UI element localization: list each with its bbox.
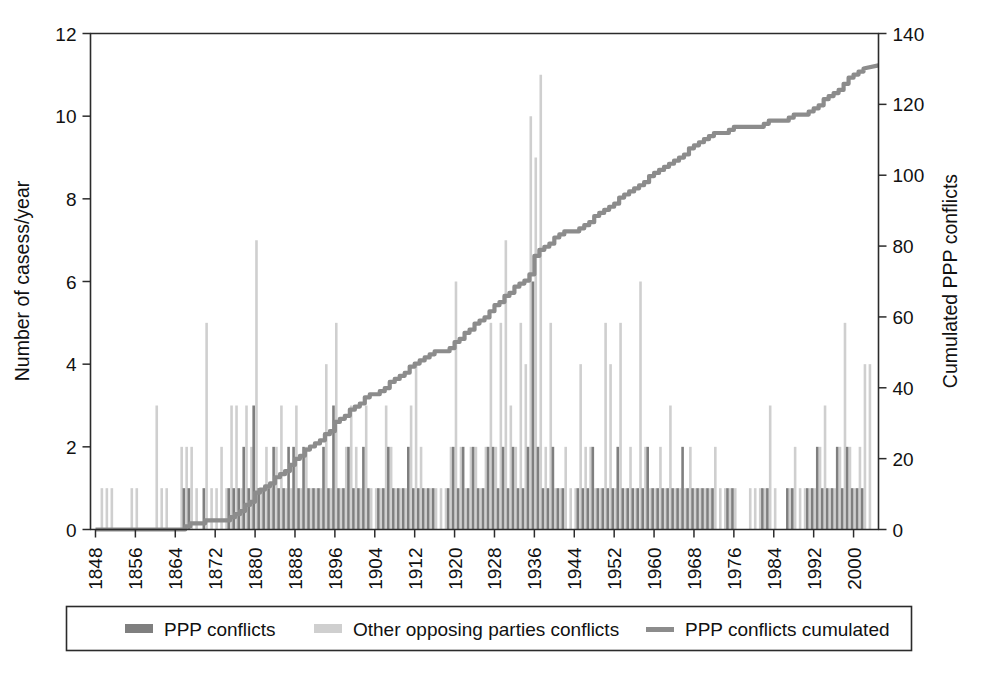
legend-swatch-ppp-conflicts xyxy=(125,624,153,633)
left-tick-label: 2 xyxy=(66,437,77,458)
legend-label-cumulated: PPP conflicts cumulated xyxy=(685,619,890,640)
x-tick-label: 1928 xyxy=(484,548,505,590)
left-axis-title: Number of casess/year xyxy=(11,180,33,381)
x-tick-label: 1960 xyxy=(644,548,665,590)
left-tick-label: 0 xyxy=(66,520,77,541)
right-tick-label: 100 xyxy=(893,165,925,186)
x-tick-label: 1896 xyxy=(325,548,346,590)
x-tick-label: 1864 xyxy=(165,547,186,590)
x-tick-label: 1944 xyxy=(564,547,585,590)
right-tick-label: 20 xyxy=(893,449,914,470)
left-tick-label: 8 xyxy=(66,189,77,210)
left-tick-label: 4 xyxy=(66,354,77,375)
x-tick-label: 1912 xyxy=(405,548,426,590)
x-tick-label: 1992 xyxy=(804,548,825,590)
legend-label-ppp-conflicts: PPP conflicts xyxy=(164,619,276,640)
x-tick-label: 1920 xyxy=(445,548,466,590)
right-axis-title: Cumulated PPP conflicts xyxy=(939,174,961,388)
x-tick-label: 1848 xyxy=(85,548,106,590)
ppp-conflicts-chart: 024681012 020406080100120140 18481856186… xyxy=(0,0,982,681)
x-tick-label: 2000 xyxy=(844,548,865,590)
right-tick-label: 80 xyxy=(893,236,914,257)
left-tick-label: 10 xyxy=(55,106,76,127)
x-tick-label: 1880 xyxy=(245,548,266,590)
right-tick-label: 40 xyxy=(893,378,914,399)
x-tick-label: 1888 xyxy=(285,548,306,590)
right-tick-label: 120 xyxy=(893,94,925,115)
chart-legend: PPP conflicts Other opposing parties con… xyxy=(67,607,912,651)
legend-label-other-conflicts: Other opposing parties conflicts xyxy=(353,619,619,640)
x-tick-label: 1952 xyxy=(604,548,625,590)
x-tick-label: 1936 xyxy=(524,548,545,590)
left-tick-label: 12 xyxy=(55,24,76,45)
x-tick-label: 1976 xyxy=(724,548,745,590)
x-tick-label: 1984 xyxy=(764,547,785,590)
right-tick-label: 140 xyxy=(893,24,925,45)
right-tick-label: 0 xyxy=(893,520,904,541)
x-tick-label: 1968 xyxy=(684,548,705,590)
legend-swatch-other-conflicts xyxy=(314,624,342,633)
x-tick-label: 1856 xyxy=(125,548,146,590)
left-tick-label: 6 xyxy=(66,272,77,293)
right-tick-label: 60 xyxy=(893,307,914,328)
chart-figure: 024681012 020406080100120140 18481856186… xyxy=(0,0,982,681)
x-tick-label: 1872 xyxy=(205,548,226,590)
legend-swatch-cumulated-line xyxy=(646,627,674,632)
x-tick-label: 1904 xyxy=(365,547,386,590)
